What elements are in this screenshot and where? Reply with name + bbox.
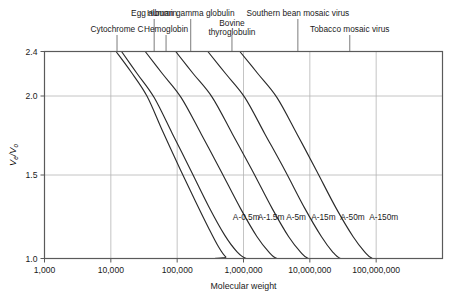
curve-labels: A-0.5mA-1.5mA-5mA-15mA-50mA-150m [233, 212, 398, 222]
curves-group [116, 52, 442, 259]
curve-label-a-5m: A-5m [286, 212, 306, 222]
annotation-label-cytochrome-c: Cytochrome C [91, 24, 144, 34]
y-tick-label: 2.0 [26, 91, 38, 101]
annotation-label-bovine-thyroglobulin: Bovinethyroglobulin [208, 18, 255, 37]
curve-label-a-15m: A-15m [311, 212, 336, 222]
x-tick-label: 100,000,000 [352, 265, 400, 275]
y-tick-label: 1.0 [26, 254, 38, 264]
y-axis-title-text: Ve/Vo [8, 144, 19, 166]
curve-label-a-150m: A-150m [369, 212, 398, 222]
x-axis-title: Molecular weight [210, 281, 277, 291]
curve-label-a-1-5m: A-1.5m [258, 212, 285, 222]
curve-a-5m [145, 52, 442, 259]
curve-a-15m [176, 52, 443, 259]
y-axis: 1.01.52.02.4 [26, 47, 45, 264]
annotation-label-southern-bean-mosaic-virus: Southern bean mosaic virus [246, 8, 349, 18]
curve-a-0-5m [116, 52, 442, 259]
molecular-weight-exclusion-chart: A-0.5mA-1.5mA-5mA-15mA-50mA-150m1,00010,… [0, 0, 455, 301]
annotation-label-hemoglobin: Hemoglobin [144, 24, 189, 34]
curve-label-a-50m: A-50m [340, 212, 365, 222]
y-tick-label: 2.4 [26, 47, 38, 57]
x-tick-label: 10,000 [98, 265, 125, 275]
x-axis: 1,00010,000100,0001,000,00010,000,000100… [34, 259, 401, 291]
curve-a-50m [208, 52, 443, 259]
y-tick-label: 1.5 [26, 170, 38, 180]
annotation-label-human-gamma-globulin: Human gamma globulin [147, 8, 235, 18]
x-tick-label: 10,000,000 [288, 265, 331, 275]
y-axis-title: Ve/Vo [8, 144, 19, 166]
x-tick-label: 100,000 [162, 265, 193, 275]
standards-annotations: Cytochrome CEgg albuminHemoglobinHuman g… [91, 8, 390, 52]
x-tick-label: 1,000,000 [224, 265, 262, 275]
annotation-label-tobacco-mosaic-virus: Tobacco mosaic virus [310, 24, 389, 34]
x-tick-label: 1,000 [34, 265, 56, 275]
curve-a-150m [240, 52, 443, 259]
chart-figure: A-0.5mA-1.5mA-5mA-15mA-50mA-150m1,00010,… [0, 0, 455, 301]
curve-label-a-0-5m: A-0.5m [233, 212, 260, 222]
